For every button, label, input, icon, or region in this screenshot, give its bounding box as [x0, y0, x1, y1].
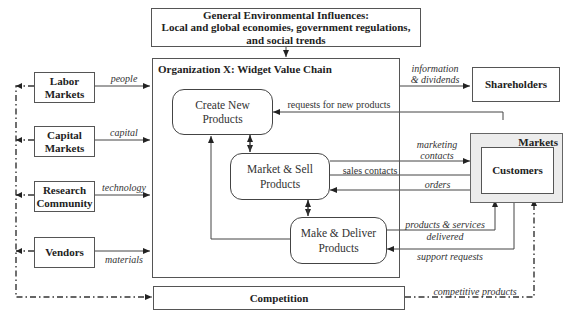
competition-box: Competition [153, 286, 405, 310]
environment-box: General Environmental Influences: Local … [151, 8, 421, 47]
competition-label: Competition [250, 292, 309, 305]
supplier-label: Markets [45, 142, 85, 155]
flow-materials: materials [100, 254, 148, 265]
environment-line1: Local and global economies, government r… [162, 21, 411, 34]
process-make-deliver-products: Make & Deliver Products [290, 217, 387, 264]
process-label: Make & Deliver [301, 226, 376, 240]
process-label: Create New [195, 98, 250, 112]
flow-competitive-products: competitive products [425, 286, 525, 297]
supplier-label: Community [36, 197, 92, 210]
environment-title: General Environmental Influences: [203, 9, 369, 22]
shareholders-box: Shareholders [472, 67, 560, 102]
flow-people: people [104, 73, 144, 84]
shareholders-label: Shareholders [485, 78, 547, 91]
flow-contacts: contacts [412, 150, 462, 161]
flow-technology: technology [98, 182, 150, 193]
flow-requests: requests for new products [278, 99, 400, 110]
customers-label: Customers [492, 164, 543, 177]
supplier-label: Vendors [45, 246, 84, 259]
supplier-label: Labor [50, 75, 79, 88]
organization-title: Organization X: Widget Value Chain [158, 63, 332, 75]
flow-dividends: & dividends [400, 74, 470, 85]
flow-products: products & services [400, 219, 490, 230]
flow-delivered: delivered [400, 231, 490, 242]
process-label: Products [202, 112, 242, 126]
supplier-research-community: Research Community [34, 181, 95, 212]
process-market-sell-products: Market & Sell Products [230, 153, 330, 200]
process-label: Products [318, 241, 358, 255]
process-create-new-products: Create New Products [172, 89, 273, 135]
flow-sales: sales contacts [340, 165, 400, 176]
supplier-vendors: Vendors [34, 237, 95, 268]
supplier-label: Capital [47, 129, 82, 142]
supplier-labor-markets: Labor Markets [34, 72, 95, 103]
environment-line2: and social trends [246, 34, 325, 47]
flow-capital: capital [104, 127, 144, 138]
flow-information: information [400, 63, 470, 74]
supplier-label: Research [43, 184, 86, 197]
supplier-label: Markets [45, 88, 85, 101]
flow-support: support requests [405, 251, 495, 262]
process-label: Products [260, 177, 300, 191]
supplier-capital-markets: Capital Markets [34, 126, 95, 157]
flow-marketing: marketing [412, 139, 462, 150]
markets-box: Markets Customers [470, 133, 563, 203]
flow-orders: orders [415, 179, 460, 190]
process-label: Market & Sell [247, 162, 313, 176]
customers-box: Customers [481, 147, 554, 194]
